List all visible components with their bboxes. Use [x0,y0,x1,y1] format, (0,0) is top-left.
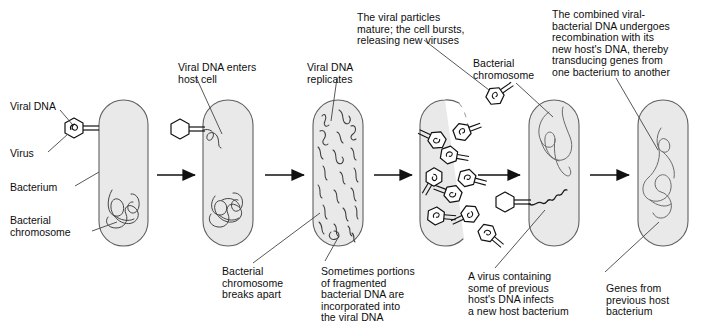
virus-attaching-cell-5 [496,192,531,212]
virus-in-cell-e [457,167,489,192]
caption-dna-incorporated: Sometimes portions of fragmented bacteri… [321,266,415,324]
virus-escaping-i [475,221,508,253]
cell-1-uninfected-bacterium [99,100,148,246]
label-bacterium: Bacterium [10,182,57,194]
label-bacterial-chromosome: Bacterial chromosome [10,215,71,238]
caption-step4: The viral particles mature; the cell bur… [357,12,464,47]
caption-step5: A virus containing some of previous host… [468,271,569,317]
label-bacterial-chromosome-right: Bacterial chromosome [473,58,534,81]
caption-step3: Viral DNA replicates [307,62,353,85]
virus-released-top [483,77,517,108]
caption-step6: The combined viral- bacterial DNA underg… [552,9,670,79]
virus-attaching-cell-1 [65,118,99,138]
label-viral-dna: Viral DNA [10,101,56,113]
leader-genes-from-host [605,222,659,272]
caption-genes-from-host: Genes from previous host bacterium [606,283,669,318]
leader-breaks-apart [253,213,320,263]
caption-chromosome-breaks: Bacterial chromosome breaks apart [222,266,283,301]
cell-6-transduced-bacterium [638,100,688,246]
diagram-canvas: Viral DNA Virus Bacterium Bacterial chro… [0,0,707,327]
cell-5-new-host-bacterium [529,100,579,246]
virus-attaching-cell-2 [171,119,205,139]
cell-2-infected-bacterium [203,100,253,246]
virus-in-cell-b [451,117,483,143]
leader-virus [48,134,68,152]
caption-step2: Viral DNA enters host cell [178,62,256,85]
label-virus: Virus [10,148,34,160]
leader-bacterium [75,172,99,186]
cell-3-replicating-viral-dna [313,100,363,246]
